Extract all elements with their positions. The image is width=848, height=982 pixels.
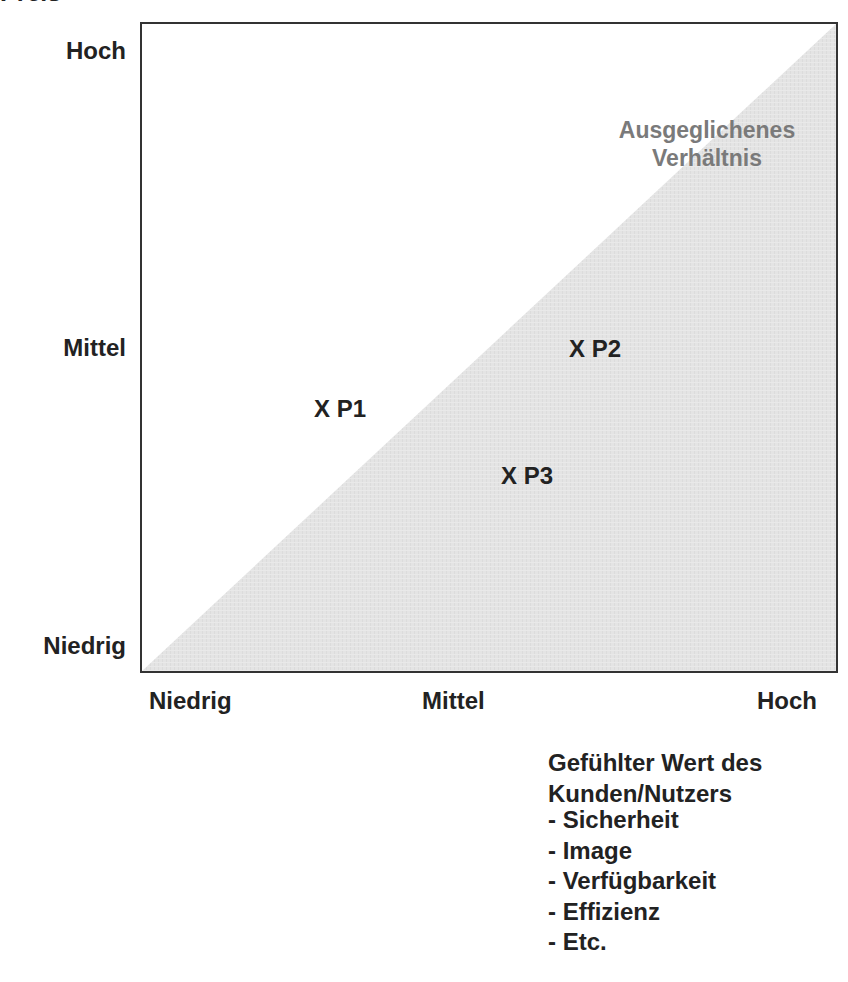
list-item: - Effizienz: [548, 897, 716, 928]
point-p1: X P1: [314, 395, 366, 423]
list-item: - Etc.: [548, 927, 716, 958]
y-tick-mid: Mittel: [0, 334, 126, 362]
y-tick-high: Hoch: [0, 37, 126, 65]
point-p2: X P2: [569, 335, 621, 363]
x-title-line1: Gefühlter Wert des: [548, 747, 762, 778]
balance-label-line2: Verhältnis: [594, 144, 820, 172]
y-tick-low: Niedrig: [0, 632, 126, 660]
balance-label-line1: Ausgeglichenes: [594, 116, 820, 144]
y-axis-title: Preis: [0, 0, 61, 7]
point-p3: X P3: [501, 462, 553, 490]
x-axis-title: Gefühlter Wert des Kunden/Nutzers: [548, 747, 762, 809]
list-item: - Verfügbarkeit: [548, 866, 716, 897]
list-item: - Sicherheit: [548, 805, 716, 836]
balance-region-label: Ausgeglichenes Verhältnis: [594, 116, 820, 172]
x-tick-low: Niedrig: [149, 687, 232, 715]
list-item: - Image: [548, 836, 716, 867]
value-attributes-list: - Sicherheit - Image - Verfügbarkeit - E…: [548, 805, 716, 958]
x-tick-mid: Mittel: [422, 687, 485, 715]
x-tick-high: Hoch: [757, 687, 817, 715]
